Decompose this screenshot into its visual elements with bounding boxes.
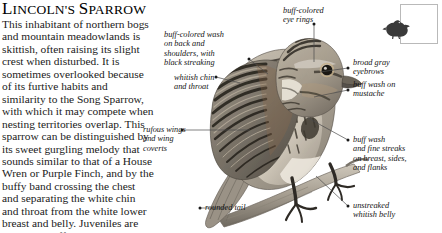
sparrow-silhouette-icon bbox=[382, 16, 416, 42]
annotation-broad-gray-eyebrows: broad gray eyebrows bbox=[353, 58, 390, 77]
annotation-rufous-wings-and-wing-coverts: rufous wings and wing coverts bbox=[143, 125, 186, 153]
annotation-buff-colored-wash-back-shoulders: buff-colored wash on back and shoulders,… bbox=[164, 30, 224, 68]
title-part-0: L bbox=[2, 0, 13, 18]
annotation-whitish-chin-and-throat: whitish chin and throat bbox=[174, 73, 214, 92]
field-guide-page: LINCOLN'S SPARROW This inhabitant of nor… bbox=[0, 0, 442, 233]
annotation-buff-wash-on-mustache: buff wash on mustache bbox=[353, 80, 395, 99]
title-part-2: S bbox=[79, 0, 89, 18]
species-description-text: This inhabitant of northern bogs and mou… bbox=[2, 18, 154, 233]
eye bbox=[322, 65, 333, 76]
title-part-1: INCOLN'S bbox=[13, 2, 79, 17]
title-part-3: PARROW bbox=[88, 2, 146, 17]
annotation-buff-wash-and-fine-streaks: buff wash and fine streaks on breast, si… bbox=[353, 135, 407, 173]
annotation-buff-colored-eye-rings: buff-colored eye rings bbox=[283, 6, 324, 25]
annotation-unstreaked-whitish-belly: unstreaked whitish belly bbox=[353, 201, 395, 220]
sparrow-head bbox=[276, 38, 362, 117]
annotation-rounded-tail: rounded tail bbox=[205, 203, 245, 212]
page-title: LINCOLN'S SPARROW bbox=[2, 0, 146, 19]
